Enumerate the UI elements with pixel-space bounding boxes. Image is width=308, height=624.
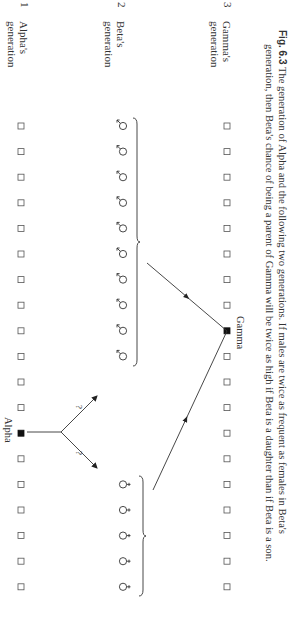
individual-square (18, 174, 24, 180)
males-brace (133, 118, 140, 366)
generation-number-2: 2 (116, 2, 128, 8)
individual-square (18, 353, 24, 359)
alpha-generation-label-line1: Alpha's (18, 21, 30, 67)
figure-caption: Fig. 6.3 The generation of Alpha and the… (263, 30, 288, 562)
individual-square (224, 277, 230, 283)
individual-square (18, 507, 24, 513)
beta-generation-label: Beta's generation (103, 21, 127, 67)
generation-number-1: 1 (19, 2, 31, 8)
alpha-node (18, 430, 24, 436)
individual-square (224, 302, 230, 308)
pedigree-figure: Alpha's generation 1 Beta's generation 2… (0, 0, 308, 624)
individual-square (224, 123, 230, 129)
individual-square (224, 558, 230, 564)
male-symbol-icon (117, 146, 127, 156)
beta-generation-label-line1: Beta's (115, 21, 127, 67)
individual-square (18, 225, 24, 231)
individual-square (18, 533, 24, 539)
individual-square (18, 123, 24, 129)
individual-square (224, 481, 230, 487)
male-symbol-icon (117, 222, 127, 232)
male-symbol-icon (117, 274, 127, 284)
individual-square (224, 405, 230, 411)
individual-square (224, 379, 230, 385)
male-symbol-icon (117, 120, 127, 130)
individual-square (18, 302, 24, 308)
individual-square (18, 405, 24, 411)
beta-generation-row (117, 120, 131, 590)
alpha-label: Alpha (3, 417, 14, 443)
female-symbol-icon (119, 506, 130, 513)
individual-square (18, 149, 24, 155)
individual-square (18, 277, 24, 283)
beta-generation-label-line2: generation (103, 21, 115, 67)
caption-line-2: generation, then Beta's chance of being … (263, 30, 276, 562)
pedigree-diagram (0, 0, 308, 624)
individual-square (224, 353, 230, 359)
gamma-generation-label-line2: generation (209, 21, 221, 67)
individual-square (224, 584, 230, 590)
female-symbol-icon (119, 481, 130, 488)
caption-text-1: The generation of Alpha and the followin… (277, 64, 288, 533)
male-symbol-icon (117, 299, 127, 309)
individual-square (18, 584, 24, 590)
question-mark-down: ? (74, 451, 84, 455)
female-symbol-icon (119, 532, 130, 539)
individual-square (224, 507, 230, 513)
females-to-gamma-line (153, 331, 227, 490)
alpha-generation-label-line2: generation (6, 21, 18, 67)
individual-square (18, 481, 24, 487)
male-symbol-icon (117, 325, 127, 335)
individual-square (224, 430, 230, 436)
gamma-generation-label-line1: Gamma's (221, 21, 233, 67)
alpha-generation-label: Alpha's generation (6, 21, 30, 67)
individual-square (224, 149, 230, 155)
individual-square (18, 456, 24, 462)
male-symbol-icon (117, 197, 127, 207)
individual-square (18, 328, 24, 334)
gamma-label: Gamma (235, 316, 246, 349)
female-symbol-icon (119, 558, 130, 565)
male-symbol-icon (117, 248, 127, 258)
figure-number: Fig. 6.3 (277, 30, 288, 64)
generation-number-3: 3 (222, 2, 234, 8)
females-brace (139, 476, 146, 596)
individual-square (18, 251, 24, 257)
individual-square (18, 558, 24, 564)
individual-square (224, 174, 230, 180)
individual-square (18, 379, 24, 385)
female-symbol-icon (119, 583, 130, 590)
gamma-generation-row (224, 123, 230, 590)
alpha-generation-row (18, 123, 24, 590)
alpha-branch-down (61, 432, 97, 468)
individual-square (224, 200, 230, 206)
alpha-branch-up (61, 396, 97, 432)
individual-square (18, 200, 24, 206)
caption-line-1: Fig. 6.3 The generation of Alpha and the… (276, 30, 289, 562)
individual-square (224, 225, 230, 231)
gamma-generation-label: Gamma's generation (209, 21, 233, 67)
male-symbol-icon (117, 171, 127, 181)
individual-square (224, 456, 230, 462)
male-symbol-icon (117, 350, 127, 360)
individual-square (224, 251, 230, 257)
question-mark-up: ? (74, 405, 84, 409)
individual-square (224, 533, 230, 539)
